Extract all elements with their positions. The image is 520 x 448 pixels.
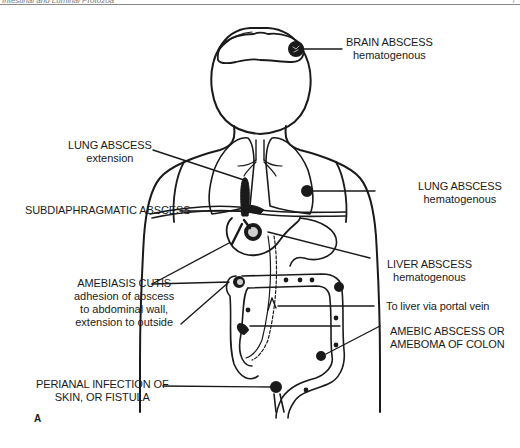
panel-letter: A [34,413,41,424]
label-liver-abscess: LIVER ABSCESS hematogenous [387,258,472,284]
label-brain-abscess: BRAIN ABSCESS hematogenous [346,36,433,62]
label-lung-abscess-extension: LUNG ABSCESS extension [68,139,152,165]
colon [227,274,345,418]
label-lung-abscess-hematogenous: LUNG ABSCESS hematogenous [418,180,502,206]
label-portal-vein: To liver via portal vein [386,300,489,313]
label-amebic-abscess-colon: AMEBIC ABSCESS OR AMEBOMA OF COLON [390,325,505,351]
label-amebiasis-cutis: AMEBIASIS CUTIS adhesion of abscess to a… [74,277,174,329]
lung-abscess-hematogenous-marker [302,186,312,196]
label-subdiaphragmatic-abscess: SUBDIAPHRAGMATIC ABSCESS [25,204,191,217]
label-perianal-infection: PERIANAL INFECTION OF SKIN, OR FISTULA [36,378,169,404]
